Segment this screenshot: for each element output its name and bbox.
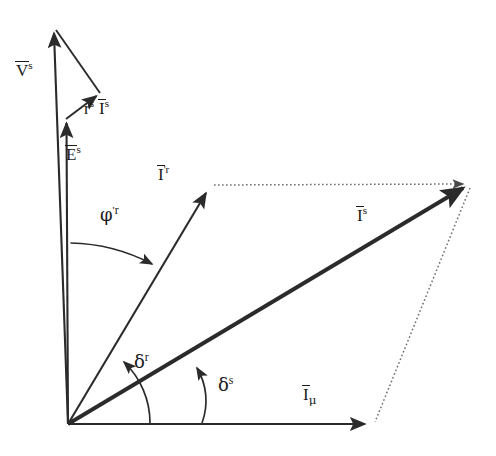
label-i-mu-symbol: I <box>303 386 309 403</box>
label-rs-sup: s <box>90 97 94 109</box>
label-phi-sup: 'r <box>113 203 119 217</box>
label-i-s: Is <box>357 207 367 224</box>
label-e-s: Es <box>66 146 81 163</box>
label-e-s-symbol: E <box>66 146 76 163</box>
construction-line-top <box>214 184 463 185</box>
label-i-mu: Iμ <box>303 386 316 403</box>
label-is-symbol: I <box>99 100 105 117</box>
label-delta-r-sup: r <box>145 350 149 364</box>
i-s-vector <box>68 188 463 424</box>
delta-s-arc <box>197 368 206 423</box>
label-i-prime-r: I'r <box>158 166 169 183</box>
label-i-s-symbol: I <box>357 207 363 224</box>
label-delta-s: δs <box>218 376 233 394</box>
i-prime-r-vector <box>68 193 206 424</box>
construction-line-right <box>375 188 470 422</box>
e-s-vector <box>67 123 69 424</box>
v-s-vector <box>54 33 68 424</box>
label-phi-prime-r: φ'r <box>100 206 119 224</box>
label-v-s: Vs <box>16 62 33 79</box>
v-s-closing-line <box>56 30 100 93</box>
label-i-prime-r-symbol: I <box>158 166 164 183</box>
label-delta-r-symbol: δ <box>134 351 145 372</box>
phi-prime-r-arc <box>71 243 153 264</box>
phasor-diagram-canvas <box>0 0 496 456</box>
label-phi-symbol: φ <box>100 204 113 225</box>
label-delta-r: δr <box>134 353 149 371</box>
label-delta-s-symbol: δ <box>218 374 229 395</box>
label-rs-is: rsIs <box>84 100 109 117</box>
label-delta-s-sup: s <box>229 373 234 387</box>
label-i-mu-sub: μ <box>309 393 317 407</box>
label-v-s-symbol: V <box>16 62 28 79</box>
phasor-diagram: Vs rsIs Es I'r Is Iμ φ'r δr δs <box>0 0 496 456</box>
